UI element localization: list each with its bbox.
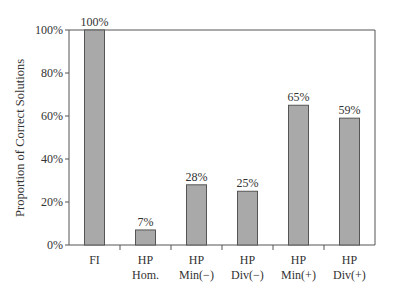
y-axis-label: Proportion of Correct Solutions xyxy=(13,59,27,217)
y-tick-label: 60% xyxy=(41,109,63,123)
bar xyxy=(340,118,360,245)
data-label: 59% xyxy=(339,103,361,117)
x-category-label: FI xyxy=(89,253,100,267)
x-axis: FIHPHom.HPMin(−)HPDiv(−)HPMin(+)HPDiv(+) xyxy=(69,245,375,282)
data-label: 7% xyxy=(138,215,154,229)
bar xyxy=(187,185,207,245)
bar xyxy=(289,105,309,245)
y-axis: 0%20%40%60%80%100% xyxy=(35,23,69,252)
y-tick-label: 100% xyxy=(35,23,63,37)
x-category-label: Min(+) xyxy=(281,268,316,282)
bar-chart: 0%20%40%60%80%100% FIHPHom.HPMin(−)HPDiv… xyxy=(0,0,395,294)
x-category-label: Min(−) xyxy=(179,268,214,282)
data-label: 28% xyxy=(186,170,208,184)
y-tick-label: 0% xyxy=(47,238,63,252)
x-category-label: HP xyxy=(342,253,358,267)
bar xyxy=(85,30,105,245)
x-category-label: HP xyxy=(240,253,256,267)
bar xyxy=(238,191,258,245)
bar xyxy=(136,230,156,245)
x-category-label: Div(−) xyxy=(231,268,264,282)
data-label: 100% xyxy=(81,15,109,29)
x-category-label: HP xyxy=(291,253,307,267)
data-label: 25% xyxy=(237,176,259,190)
x-category-label: HP xyxy=(189,253,205,267)
y-tick-label: 20% xyxy=(41,195,63,209)
x-category-label: Hom. xyxy=(132,268,159,282)
y-tick-label: 40% xyxy=(41,152,63,166)
data-label: 65% xyxy=(288,90,310,104)
x-category-label: Div(+) xyxy=(333,268,366,282)
plot-area xyxy=(69,30,375,245)
bars: 100%7%28%25%65%59% xyxy=(81,15,361,245)
x-category-label: HP xyxy=(138,253,154,267)
y-tick-label: 80% xyxy=(41,66,63,80)
